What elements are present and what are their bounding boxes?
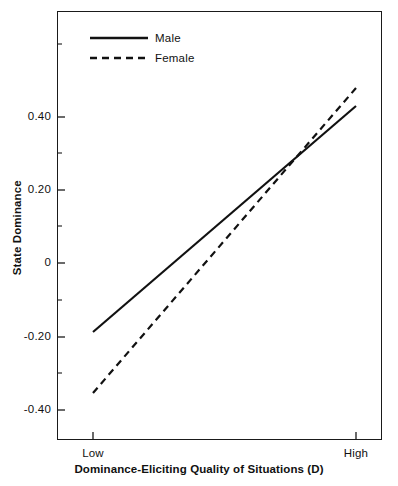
legend-label-female: Female [155,53,195,65]
y-tick-label-0: 0.40 [0,111,51,123]
plot-area-frame [57,11,382,440]
y-tick-label-1: 0.20 [0,184,51,196]
y-tick-label-4: -0.40 [0,404,51,416]
x-tick-label-low: Low [58,448,128,460]
y-tick-label-3: -0.20 [0,331,51,343]
y-axis-title: State Dominance [12,158,24,298]
y-tick-label-2: 0 [0,257,51,269]
legend-label-male: Male [155,33,181,45]
x-tick-label-high: High [321,448,391,460]
x-axis-title: Dominance-Eliciting Quality of Situation… [0,464,398,476]
line-chart-figure: Male Female 0.40 0.20 0 -0.20 -0.40 Low … [0,0,398,486]
